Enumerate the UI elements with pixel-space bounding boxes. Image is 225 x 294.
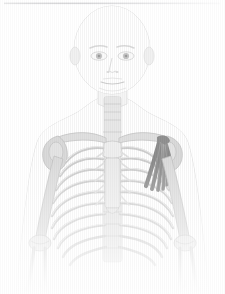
anatomy-canvas [0, 0, 225, 294]
global-scanline-texture [0, 0, 225, 294]
anatomy-illustration: Anterior view of human upper torso skele… [0, 0, 225, 294]
